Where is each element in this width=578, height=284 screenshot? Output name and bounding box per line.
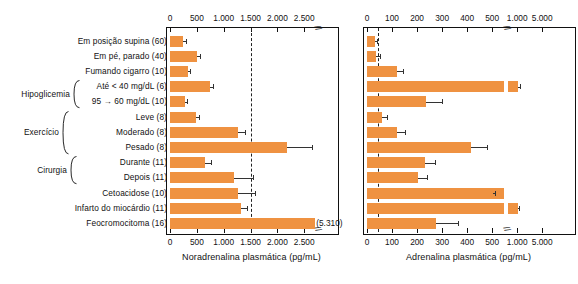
error-bar-cap-adrenalina-9 <box>427 175 428 180</box>
row-label-12: Feocromocitoma (16) <box>86 218 167 228</box>
error-bar-cap-noradrenalina-2 <box>190 69 191 74</box>
error-bar-noradrenalina-7 <box>287 147 312 148</box>
error-bar-adrenalina-8 <box>425 163 435 164</box>
row-label-10: Cetoacidose (10) <box>102 188 167 198</box>
axis-tick-adrenalina-bottom-7 <box>542 228 543 233</box>
axis-tick-label-adrenalina-bottom-1: 100 <box>385 237 399 247</box>
axis-tick-label-adrenalina-bottom-2: 200 <box>410 237 424 247</box>
error-bar-cap-noradrenalina-4 <box>187 99 188 104</box>
axis-tick-label-noradrenalina-top-0: 0 <box>168 13 173 23</box>
axis-tick-adrenalina-top-1 <box>392 27 393 32</box>
error-bar-cap-adrenalina-1 <box>380 54 381 59</box>
error-bar-cap-adrenalina-11 <box>519 206 520 211</box>
error-bar-cap-adrenalina-4 <box>442 99 443 104</box>
bar-adrenalina-1 <box>367 51 376 62</box>
row-label-3: Até < 40 mg/dL (6) <box>97 81 167 91</box>
error-bar-cap-noradrenalina-10 <box>255 191 256 196</box>
bar-adrenalina-7 <box>367 142 471 153</box>
bar-noradrenalina-10 <box>170 188 238 199</box>
bar-adrenalina-9 <box>367 172 418 183</box>
axis-tick-label-noradrenalina-top-1: 500 <box>190 13 204 23</box>
axis-tick-noradrenalina-top-2 <box>224 27 225 32</box>
axis-tick-label-adrenalina-bottom-6: 1.000 <box>507 237 528 247</box>
error-bar-cap-noradrenalina-0 <box>186 39 187 44</box>
axis-tick-label-adrenalina-top-5: 500 <box>485 13 499 23</box>
bar-adrenalina-12 <box>367 218 436 229</box>
error-bar-cap-noradrenalina-1 <box>200 54 201 59</box>
axis-tick-label-adrenalina-top-7: 5.000 <box>532 13 553 23</box>
figure-root: ////005005001.0001.0001.5001.5002.0002.0… <box>0 0 578 284</box>
group-brace-0 <box>73 80 80 108</box>
error-bar-cap-adrenalina-5 <box>387 115 388 120</box>
bar-noradrenalina-2 <box>170 66 188 77</box>
axis-tick-label-adrenalina-bottom-0: 0 <box>365 237 370 247</box>
bar-adrenalina-0 <box>367 36 375 47</box>
axis-tick-label-noradrenalina-bottom-1: 500 <box>190 237 204 247</box>
error-bar-cap-adrenalina-12 <box>458 221 459 226</box>
error-bar-cap-noradrenalina-9 <box>253 175 254 180</box>
bar-noradrenalina-8 <box>170 157 205 168</box>
bar-noradrenalina-5 <box>170 112 196 123</box>
bar-adrenalina-8 <box>367 157 425 168</box>
axis-tick-adrenalina-bottom-5 <box>492 228 493 233</box>
axis-tick-label-adrenalina-top-0: 0 <box>365 13 370 23</box>
axis-tick-adrenalina-top-5 <box>492 27 493 32</box>
axis-tick-label-noradrenalina-bottom-2: 1.000 <box>213 237 234 247</box>
reference-line-noradrenalina <box>251 28 252 232</box>
data-label-noradrenalina-12: (5.310) <box>316 218 342 228</box>
bar-noradrenalina-9 <box>170 172 234 183</box>
bar-noradrenalina-4 <box>170 96 185 107</box>
group-brace-2 <box>70 156 77 184</box>
error-bar-cap-noradrenalina-6 <box>245 130 246 135</box>
bar-adrenalina-11-b <box>508 203 518 214</box>
axis-tick-label-adrenalina-bottom-5: 500 <box>485 237 499 247</box>
group-label-2: Cirurgia <box>0 165 67 175</box>
row-label-2: Fumando cigarro (10) <box>85 66 167 76</box>
axis-tick-noradrenalina-top-1 <box>197 27 198 32</box>
axis-tick-label-adrenalina-bottom-4: 400 <box>460 237 474 247</box>
bar-adrenalina-6 <box>367 127 397 138</box>
error-bar-cap-noradrenalina-5 <box>199 115 200 120</box>
axis-tick-adrenalina-bottom-3 <box>442 228 443 233</box>
row-label-7: Pesado (8) <box>125 142 167 152</box>
bar-noradrenalina-6 <box>170 127 238 138</box>
bar-noradrenalina-3 <box>170 81 210 92</box>
group-label-1: Exercício <box>0 127 59 137</box>
axis-tick-adrenalina-top-3 <box>442 27 443 32</box>
axis-tick-label-adrenalina-top-4: 400 <box>460 13 474 23</box>
axis-tick-label-noradrenalina-bottom-3: 1.500 <box>240 237 261 247</box>
axis-tick-adrenalina-top-4 <box>467 27 468 32</box>
row-label-0: Em posição supina (60) <box>78 36 167 46</box>
error-bar-adrenalina-7 <box>471 147 487 148</box>
error-bar-adrenalina-9 <box>418 178 427 179</box>
error-bar-noradrenalina-6 <box>238 132 245 133</box>
axis-tick-label-noradrenalina-bottom-0: 0 <box>168 237 173 247</box>
row-label-4: 95 → 60 mg/dL (10) <box>92 96 167 106</box>
axis-tick-adrenalina-top-7 <box>542 27 543 32</box>
bar-adrenalina-10-a <box>367 188 504 199</box>
bar-adrenalina-11-a <box>367 203 504 214</box>
error-bar-cap-adrenalina-10 <box>495 191 496 196</box>
axis-tick-label-noradrenalina-bottom-5: 2.500 <box>294 237 315 247</box>
row-label-6: Moderado (8) <box>116 127 167 137</box>
row-label-8: Durante (11) <box>120 157 167 167</box>
error-bar-cap-noradrenalina-11 <box>247 206 248 211</box>
axis-tick-label-noradrenalina-top-5: 2.500 <box>294 13 315 23</box>
error-bar-cap-adrenalina-6 <box>405 130 406 135</box>
error-bar-cap-adrenalina-0 <box>377 39 378 44</box>
axis-tick-label-noradrenalina-top-2: 1.000 <box>213 13 234 23</box>
row-label-1: Em pé, parado (40) <box>94 51 167 61</box>
bar-adrenalina-2 <box>367 66 397 77</box>
bar-adrenalina-3-b <box>508 81 518 92</box>
error-bar-adrenalina-4 <box>426 102 442 103</box>
axis-tick-label-adrenalina-bottom-7: 5.000 <box>532 237 553 247</box>
error-bar-adrenalina-6 <box>397 132 405 133</box>
error-bar-cap-noradrenalina-3 <box>213 84 214 89</box>
bar-adrenalina-4 <box>367 96 426 107</box>
axis-tick-label-adrenalina-bottom-3: 300 <box>435 237 449 247</box>
error-bar-cap-adrenalina-2 <box>403 69 404 74</box>
error-bar-cap-adrenalina-3 <box>520 84 521 89</box>
error-bar-cap-adrenalina-8 <box>435 160 436 165</box>
axis-tick-noradrenalina-top-0 <box>170 27 171 32</box>
group-brace-1 <box>62 111 69 154</box>
